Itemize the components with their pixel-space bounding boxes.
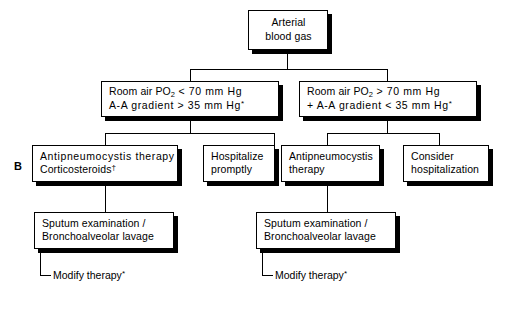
connector-root-stem <box>287 50 288 70</box>
connector-to-branch-right <box>387 69 388 81</box>
node-arterial-blood-gas[interactable]: Arterial blood gas <box>248 10 328 50</box>
footnote-asterisk: * <box>449 98 452 107</box>
terminal-left-modify-therapy: Modify therapy* <box>53 269 125 282</box>
connector-to-right-treatment <box>327 133 328 145</box>
connector-right-branch-split-bar <box>327 133 440 134</box>
node-room-air-po2-high[interactable]: Room air PO2 > 70 mm Hg + A-A gradient <… <box>299 81 477 117</box>
node-line-2: therapy <box>289 163 373 176</box>
node-line-2: hospitalization <box>411 163 482 176</box>
connector-to-hospitalize <box>274 133 275 145</box>
connector-left-terminal-elbow <box>40 275 51 276</box>
connector-left-branch-stem <box>190 117 191 134</box>
node-line-2: Corticosteroids† <box>40 163 171 176</box>
connector-root-split-bar <box>190 69 388 70</box>
terminal-right-modify-therapy: Modify therapy* <box>275 269 347 282</box>
node-line-2: Bronchoalveolar lavage <box>264 230 389 243</box>
node-line-2: blood gas <box>265 30 311 43</box>
connector-to-branch-left <box>190 69 191 81</box>
node-antipneumocystis-corticosteroids[interactable]: Antipneumocystis therapy Corticosteroids… <box>32 145 178 182</box>
node-line-1: Room air PO2 < 70 mm Hg <box>109 85 272 98</box>
connector-to-left-treatment <box>105 133 106 145</box>
node-antipneumocystis-therapy[interactable]: Antipneumocystis therapy <box>281 145 380 182</box>
footnote-asterisk: * <box>241 98 244 107</box>
footnote-dagger: † <box>112 163 117 172</box>
node-right-sputum-examination[interactable]: Sputum examination / Bronchoalveolar lav… <box>256 212 396 249</box>
connector-right-terminal-drop <box>262 253 263 276</box>
connector-right-terminal-elbow <box>262 275 273 276</box>
node-line-1: Antipneumocystis <box>289 150 373 163</box>
node-line-1: Antipneumocystis therapy <box>40 150 171 163</box>
connector-left-treatment-to-sputum <box>105 182 106 212</box>
footnote-asterisk: * <box>122 269 125 278</box>
node-consider-hospitalization[interactable]: Consider hospitalization <box>403 145 489 182</box>
node-line-1: Room air PO2 > 70 mm Hg <box>307 85 470 98</box>
connector-right-branch-stem <box>387 117 388 134</box>
node-line-1: Sputum examination / <box>264 217 389 230</box>
node-line-1: Arterial <box>271 16 305 29</box>
node-room-air-po2-low[interactable]: Room air PO2 < 70 mm Hg A-A gradient > 3… <box>101 81 279 117</box>
node-line-1: Sputum examination / <box>42 217 167 230</box>
connector-left-terminal-drop <box>40 253 41 276</box>
node-left-sputum-examination[interactable]: Sputum examination / Bronchoalveolar lav… <box>34 212 174 249</box>
connector-to-consider-hospitalization <box>439 133 440 145</box>
footnote-asterisk: * <box>344 269 347 278</box>
panel-label-b: B <box>14 160 22 172</box>
node-line-2: + A-A gradient < 35 mm Hg* <box>307 99 470 112</box>
node-line-2: A-A gradient > 35 mm Hg* <box>109 99 272 112</box>
connector-right-treatment-to-sputum <box>327 182 328 212</box>
node-line-2: promptly <box>211 163 268 176</box>
node-hospitalize-promptly[interactable]: Hospitalize promptly <box>203 145 275 182</box>
connector-left-branch-split-bar <box>105 133 275 134</box>
node-line-2: Bronchoalveolar lavage <box>42 230 167 243</box>
node-line-1: Hospitalize <box>211 150 268 163</box>
flowchart-canvas: B Arterial blood gas Room air PO2 < 70 m… <box>0 0 505 310</box>
node-line-1: Consider <box>411 150 482 163</box>
